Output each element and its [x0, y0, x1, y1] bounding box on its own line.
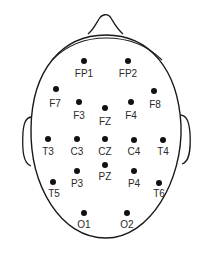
- electrode-t5-dot: [50, 179, 56, 185]
- right-ear: [181, 115, 190, 164]
- electrode-c3-dot: [74, 136, 80, 142]
- electrode-cz-dot: [102, 136, 108, 142]
- electrode-o2-dot: [124, 210, 130, 216]
- electrode-p3-label: P3: [71, 179, 83, 189]
- electrode-o2-label: O2: [120, 220, 133, 230]
- nose-shape: [88, 15, 123, 34]
- electrode-c3-label: C3: [71, 147, 84, 157]
- electrode-t4-dot: [160, 137, 166, 143]
- electrode-t4-label: T4: [157, 147, 169, 157]
- electrode-fp1-label: FP1: [75, 69, 93, 79]
- electrode-fz-label: FZ: [99, 117, 111, 127]
- electrode-pz-label: PZ: [99, 172, 112, 182]
- eeg-head-diagram: FP1FP2F7F8F3FZF4T3C3CZC4T4PZP3P4T5T6O1O2: [0, 0, 211, 253]
- electrode-c4-label: C4: [128, 147, 141, 157]
- electrode-p3-dot: [74, 168, 80, 174]
- electrode-pz-dot: [102, 162, 108, 168]
- electrode-t6-dot: [156, 180, 162, 186]
- electrode-f7-label: F7: [49, 99, 61, 109]
- electrode-f3-label: F3: [73, 111, 85, 121]
- head-inner-arc: [52, 38, 162, 60]
- electrode-p4-label: P4: [128, 179, 140, 189]
- electrode-f8-dot: [151, 88, 157, 94]
- electrode-t5-label: T5: [48, 189, 60, 199]
- electrode-cz-label: CZ: [98, 147, 111, 157]
- electrode-fz-dot: [102, 105, 108, 111]
- electrode-f7-dot: [53, 86, 59, 92]
- electrode-t3-label: T3: [42, 147, 54, 157]
- electrode-c4-dot: [131, 137, 137, 143]
- electrode-fp2-label: FP2: [119, 69, 137, 79]
- electrode-fp2-dot: [125, 58, 131, 64]
- electrode-o1-dot: [81, 210, 87, 216]
- electrode-t6-label: T6: [153, 189, 165, 199]
- electrode-fp1-dot: [81, 58, 87, 64]
- left-ear: [23, 117, 31, 166]
- electrode-o1-label: O1: [77, 220, 90, 230]
- electrode-t3-dot: [45, 136, 51, 142]
- electrode-f4-label: F4: [125, 111, 137, 121]
- electrode-f8-label: F8: [149, 100, 161, 110]
- electrode-f3-dot: [76, 99, 82, 105]
- electrode-f4-dot: [128, 99, 134, 105]
- electrode-p4-dot: [131, 168, 137, 174]
